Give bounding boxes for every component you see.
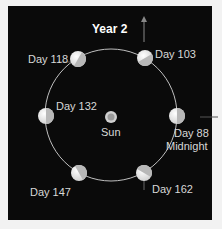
planet-label-day-88: Day 88 <box>174 127 209 139</box>
planet-icon-day-147 <box>71 162 90 181</box>
planet-icon-day-162 <box>136 162 155 181</box>
diagram-title: Year 2 <box>92 22 127 36</box>
sun-icon <box>105 111 117 123</box>
planet-icon-day-132 <box>38 108 54 124</box>
planet-label-day-103: Day 103 <box>155 48 196 60</box>
planet-sublabel-midnight: Midnight <box>166 140 208 152</box>
planet-icon-day-103 <box>137 50 156 69</box>
planet-icon-day-88 <box>169 108 185 124</box>
planet-label-day-118: Day 118 <box>28 53 68 65</box>
planet-label-day-162: Day 162 <box>152 183 193 195</box>
planet-label-day-132: Day 132 <box>56 100 97 112</box>
sun-label: Sun <box>101 126 121 138</box>
planet-label-day-147: Day 147 <box>30 186 71 198</box>
arrow-head-icon <box>141 16 147 22</box>
